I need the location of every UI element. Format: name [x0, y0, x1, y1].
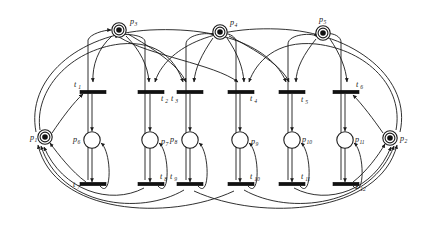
arc-a-t8-p3 — [116, 35, 145, 180]
place-label-p8: p — [169, 135, 174, 144]
transition-bar[interactable] — [177, 90, 203, 93]
transition-t11[interactable]: t11 — [279, 172, 311, 186]
place-label-p7: p — [160, 137, 165, 146]
transition-label-sub-t2: 2 — [165, 98, 168, 104]
transition-t10[interactable]: t10 — [228, 172, 260, 186]
place-p1[interactable]: p1 — [29, 130, 52, 144]
place-label-p3: p — [129, 17, 134, 26]
place-p6[interactable]: p6 — [72, 132, 100, 148]
transition-bar[interactable] — [138, 182, 164, 185]
place-label-sub-p5: 5 — [323, 19, 326, 25]
place-label-p1: p — [29, 133, 34, 142]
transition-bar[interactable] — [80, 182, 106, 185]
place-label-sub-p8: 8 — [174, 139, 177, 145]
token-marker — [116, 27, 122, 33]
place-label-sub-p2: 2 — [404, 138, 407, 144]
arc-a-p1-outer-t5 — [35, 30, 286, 132]
arc-a-p3-t3b — [128, 34, 186, 82]
transition-label-sub-t6: 6 — [360, 84, 363, 90]
arc-a-t12-p5 — [324, 34, 341, 180]
transition-label-sub-t12: 12 — [360, 186, 366, 192]
transition-t1[interactable]: t1 — [74, 80, 106, 94]
arc-a-p2-outer-t4 — [249, 44, 397, 130]
arc-a-p2-outer-t2 — [155, 29, 402, 132]
transition-label-t10: t — [250, 172, 253, 181]
arc-a-p2-t6 — [353, 95, 383, 133]
arc-a-t9-p8-loop — [198, 143, 207, 189]
transition-label-t11: t — [301, 172, 304, 181]
arcs-layer — [35, 29, 402, 208]
transition-label-t8: t — [160, 172, 163, 181]
token-marker — [217, 29, 223, 35]
transition-bar[interactable] — [228, 182, 254, 185]
place-label-p2: p — [399, 134, 404, 143]
place-label-sub-p1: 1 — [34, 137, 37, 143]
transition-label-sub-t5: 5 — [305, 99, 308, 105]
transition-t4[interactable]: t4 — [228, 90, 257, 104]
transition-label-sub-t11: 11 — [305, 176, 310, 182]
arc-a-t7-p6-loop — [100, 143, 109, 189]
transition-label-sub-t3: 3 — [174, 98, 178, 104]
petri-net-canvas: t1t2t3t4t5t6t7t8t9t10t11t12 p1p2p3p4p5p6… — [0, 0, 428, 234]
arc-a-p1-outer-t3 — [39, 44, 183, 130]
place-label-p9: p — [250, 137, 255, 146]
transition-label-t6: t — [356, 80, 359, 89]
place-p4[interactable]: p4 — [213, 18, 238, 39]
transition-label-sub-t10: 10 — [254, 176, 260, 182]
arc-a-t12-p2 — [353, 144, 385, 182]
transition-label-t1: t — [74, 80, 77, 89]
place-label-sub-p3: 3 — [133, 21, 137, 27]
arc-a-p1-t1 — [52, 94, 83, 133]
transition-label-sub-t9: 9 — [174, 176, 177, 182]
transition-bar[interactable] — [177, 182, 203, 185]
petri-net-diagram: t1t2t3t4t5t6t7t8t9t10t11t12 p1p2p3p4p5p6… — [0, 0, 428, 234]
place-label-sub-p9: 9 — [255, 141, 258, 147]
transition-label-sub-t8: 8 — [164, 176, 167, 182]
transition-bar[interactable] — [279, 90, 305, 93]
token-marker — [387, 135, 393, 141]
place-p5[interactable]: p5 — [316, 15, 330, 40]
transition-label-sub-t7: 7 — [77, 184, 80, 190]
place-ring — [182, 132, 198, 148]
place-p11[interactable]: p11 — [337, 132, 365, 148]
place-label-p5: p — [318, 15, 323, 24]
place-label-sub-p11: 11 — [359, 139, 364, 145]
place-label-p4: p — [229, 18, 234, 27]
transition-t8[interactable]: t8 — [138, 172, 167, 186]
transition-label-t2: t — [161, 94, 164, 103]
arc-a-p4-t3 — [194, 38, 213, 82]
transition-t3[interactable]: t3 — [171, 90, 203, 104]
transition-bar[interactable] — [80, 90, 106, 93]
place-p7[interactable]: p7 — [142, 132, 169, 148]
transition-t6[interactable]: t6 — [333, 80, 363, 94]
transition-t5[interactable]: t5 — [279, 90, 308, 105]
place-label-sub-p4: 4 — [234, 22, 237, 28]
transition-bar[interactable] — [279, 182, 305, 185]
arc-a-p5-t6 — [330, 39, 347, 82]
transition-label-t3: t — [171, 94, 174, 103]
place-p8[interactable]: p8 — [169, 132, 198, 148]
place-ring — [337, 132, 353, 148]
place-p10[interactable]: p10 — [284, 132, 312, 148]
transitions-layer: t1t2t3t4t5t6t7t8t9t10t11t12 — [73, 80, 366, 192]
place-p2[interactable]: p2 — [383, 131, 408, 145]
transition-t2[interactable]: t2 — [138, 90, 168, 104]
arc-a-t10-p4 — [220, 34, 236, 180]
place-label-p11: p — [354, 135, 359, 144]
place-label-sub-p7: 7 — [165, 141, 168, 147]
place-ring — [142, 132, 158, 148]
arc-a-p4-t4 — [227, 38, 244, 82]
places-layer: p1p2p3p4p5p6p7p8p9p10p11 — [29, 15, 407, 148]
transition-bar[interactable] — [333, 90, 359, 93]
place-p3[interactable]: p3 — [112, 17, 138, 37]
token-marker — [320, 30, 326, 36]
transition-t9[interactable]: t9 — [170, 172, 203, 186]
place-label-sub-p6: 6 — [77, 139, 80, 145]
transition-label-t4: t — [250, 94, 253, 103]
arc-a-t9-p2 — [194, 145, 397, 208]
arc-a-p5-t5 — [296, 39, 316, 82]
token-marker — [42, 134, 48, 140]
transition-t7[interactable]: t7 — [73, 180, 106, 190]
place-ring — [232, 132, 248, 148]
place-p9[interactable]: p9 — [232, 132, 259, 148]
